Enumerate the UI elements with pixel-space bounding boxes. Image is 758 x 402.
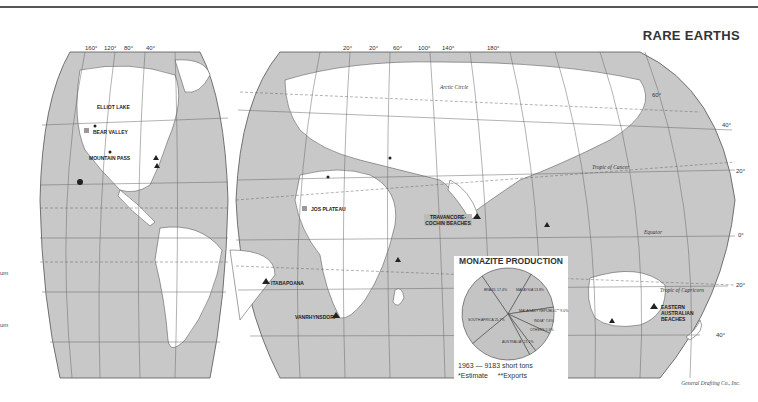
- pie-label: MALAGASY REPUBLIC** 9.0%: [519, 309, 568, 313]
- chart-subtitle: 1963 — 9183 short tons: [458, 362, 570, 369]
- site-label: ELLIOT LAKE: [96, 104, 131, 110]
- pie-label: MALAYSIA 13.8%: [516, 288, 544, 292]
- chart-title: MONAZITE PRODUCTION: [454, 256, 568, 266]
- pie-label: SOUTH AFRICA 25.7%: [468, 318, 505, 322]
- pie-label: OTHERS 2.4%: [530, 328, 554, 332]
- lat-tick: 60°: [652, 92, 661, 98]
- lat-tick: 20°: [736, 282, 745, 288]
- site-label: MOUNTAIN PASS: [88, 155, 131, 161]
- lon-tick: 80°: [124, 45, 133, 51]
- pie-label: INDIA* 7.6%: [534, 319, 554, 323]
- chart-footnotes: *Estimate **Exports: [458, 372, 570, 379]
- world-map: [0, 0, 758, 402]
- site-label: VANRHYNSDORP: [294, 314, 338, 320]
- lon-tick: 140°: [442, 45, 454, 51]
- site-label: TRAVANCORE-COCHIN BEACHES: [424, 214, 472, 226]
- site-label: JOS PLATEAU: [310, 206, 347, 212]
- lon-tick: 100°: [418, 45, 430, 51]
- lat-tick: 40°: [722, 122, 731, 128]
- legend-fragment: um: [0, 322, 8, 328]
- lat-tick: 20°: [736, 168, 745, 174]
- tropic-cancer-label: Tropic of Cancer: [592, 164, 629, 170]
- pie-chart: [454, 266, 568, 366]
- site-label: BEAR VALLEY: [92, 129, 129, 135]
- equator-label: Equator: [644, 229, 662, 235]
- lon-tick: 20°: [369, 45, 378, 51]
- site-label: ITABAPOANA: [270, 280, 305, 286]
- footnote-exports: **Exports: [498, 372, 527, 379]
- pie-label: AUSTRALIA* 21.1%: [502, 340, 534, 344]
- lon-tick: 40°: [146, 45, 155, 51]
- lat-tick: 0°: [738, 232, 744, 238]
- lon-tick: 60°: [393, 45, 402, 51]
- lat-tick: 40°: [716, 332, 725, 338]
- pie-label: BRAZIL 17.4%: [484, 288, 507, 292]
- legend-fragment: um: [0, 270, 8, 276]
- lon-tick: 160°: [85, 45, 97, 51]
- lon-tick: 120°: [104, 45, 116, 51]
- arctic-circle-label: Arctic Circle: [440, 84, 468, 90]
- lon-tick: 180°: [487, 45, 499, 51]
- footnote-estimate: *Estimate: [458, 372, 488, 379]
- credit: General Drafting Co., Inc.: [681, 380, 740, 386]
- site-label: EASTERN AUSTRALIAN BEACHES: [660, 304, 712, 322]
- lon-tick: 20°: [343, 45, 352, 51]
- monazite-chart: MONAZITE PRODUCTION BRAZIL 17.4% MALAYSI…: [454, 256, 568, 384]
- tropic-capricorn-label: Tropic of Capricorn: [660, 287, 704, 293]
